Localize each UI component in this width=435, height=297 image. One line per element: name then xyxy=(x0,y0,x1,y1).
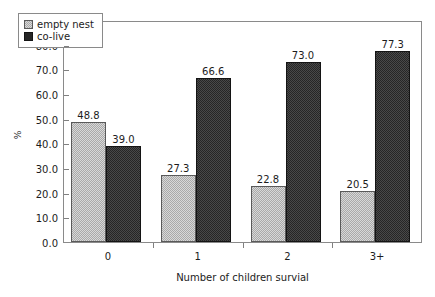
bar-empty-nest-3plus[interactable]: 20.5 xyxy=(340,191,375,242)
x-tick-mark xyxy=(153,243,154,248)
x-tick-label: 3+ xyxy=(370,251,385,262)
bar-chart-figure: % 0.010.020.030.040.050.060.070.080.090.… xyxy=(0,0,435,297)
bar-group: 22.873.0 xyxy=(244,22,334,242)
bar-co-live-1[interactable]: 66.6 xyxy=(196,78,231,242)
x-tick-label: 1 xyxy=(194,251,200,262)
bar-value-label: 73.0 xyxy=(292,50,314,61)
x-axis-title: Number of children survial xyxy=(63,272,422,283)
bar-value-label: 77.3 xyxy=(382,39,404,50)
bar-group: 27.366.6 xyxy=(154,22,244,242)
y-tick-mark xyxy=(64,144,69,145)
bar-value-label: 27.3 xyxy=(167,163,189,174)
x-tick-label: 2 xyxy=(284,251,290,262)
y-tick-mark xyxy=(64,169,69,170)
legend: empty nestco-live xyxy=(18,13,103,48)
y-tick-mark xyxy=(64,95,69,96)
legend-swatch-icon xyxy=(24,32,33,41)
x-tick-label: 0 xyxy=(105,251,111,262)
legend-swatch-icon xyxy=(24,20,33,29)
y-tick-mark xyxy=(64,194,69,195)
bar-empty-nest-2[interactable]: 22.8 xyxy=(251,186,286,242)
y-tick-label: 10.0 xyxy=(20,213,58,224)
x-tick-mark xyxy=(243,243,244,248)
y-tick-mark xyxy=(64,70,69,71)
bar-group: 20.577.3 xyxy=(333,22,423,242)
y-tick-label: 30.0 xyxy=(20,164,58,175)
y-tick-mark xyxy=(64,218,69,219)
legend-item-empty-nest[interactable]: empty nest xyxy=(24,19,94,30)
plot-area-inner: 48.839.027.366.622.873.020.577.3 xyxy=(64,22,421,242)
y-tick-label: 20.0 xyxy=(20,188,58,199)
bar-empty-nest-0[interactable]: 48.8 xyxy=(71,122,106,242)
y-tick-label: 0.0 xyxy=(20,238,58,249)
legend-label: empty nest xyxy=(37,19,94,30)
bar-value-label: 22.8 xyxy=(257,174,279,185)
legend-label: co-live xyxy=(37,31,70,42)
bar-co-live-2[interactable]: 73.0 xyxy=(286,62,321,242)
bar-value-label: 20.5 xyxy=(347,179,369,190)
y-tick-label: 50.0 xyxy=(20,114,58,125)
y-tick-label: 40.0 xyxy=(20,139,58,150)
plot-area-frame: 48.839.027.366.622.873.020.577.3 xyxy=(63,21,422,243)
bar-value-label: 48.8 xyxy=(77,110,99,121)
legend-item-co-live[interactable]: co-live xyxy=(24,31,94,42)
bar-empty-nest-1[interactable]: 27.3 xyxy=(161,175,196,242)
bar-co-live-0[interactable]: 39.0 xyxy=(106,146,141,242)
x-tick-mark xyxy=(332,243,333,248)
y-tick-mark xyxy=(64,46,69,47)
x-axis-tick-labels: 0123+ xyxy=(63,251,422,267)
bar-value-label: 39.0 xyxy=(112,134,134,145)
bar-value-label: 66.6 xyxy=(202,66,224,77)
bar-co-live-3plus[interactable]: 77.3 xyxy=(375,51,410,242)
y-axis-tick-labels: 0.010.020.030.040.050.060.070.080.090.0 xyxy=(20,21,58,243)
y-tick-label: 60.0 xyxy=(20,90,58,101)
y-tick-label: 70.0 xyxy=(20,65,58,76)
y-tick-mark xyxy=(64,120,69,121)
bar-group: 48.839.0 xyxy=(64,22,154,242)
